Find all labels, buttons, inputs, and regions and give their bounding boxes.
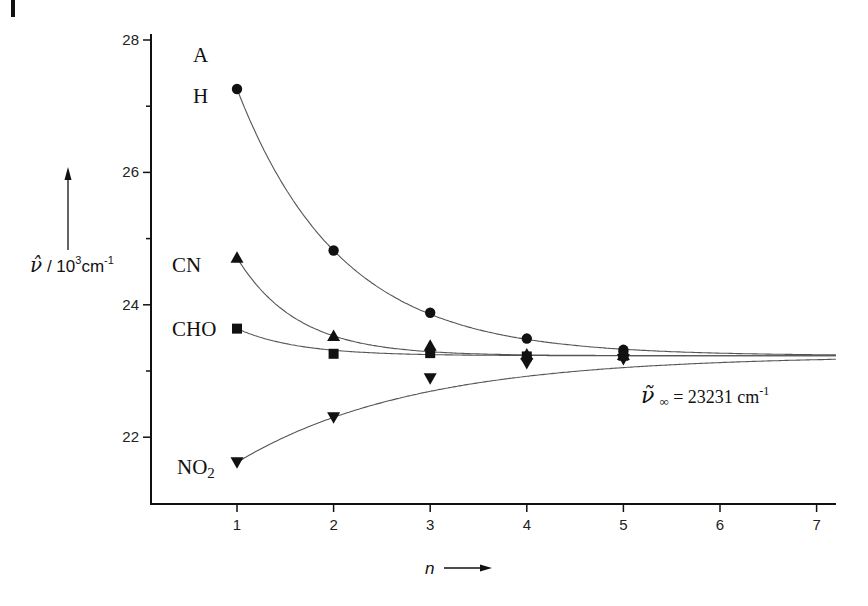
x-tick-label: 7 — [812, 516, 820, 533]
y-tick-label: 28 — [122, 31, 139, 48]
data-markers — [231, 84, 630, 469]
series-label-cho: CHO — [172, 317, 216, 341]
marker-cn — [231, 251, 244, 263]
x-tick-label: 3 — [426, 516, 434, 533]
x-tick-label: 5 — [619, 516, 627, 533]
no2-main: NO — [177, 455, 207, 479]
marker-no2 — [231, 457, 244, 469]
fit-curve-no2 — [237, 359, 836, 462]
marker-cho — [232, 324, 242, 334]
y-tick-label: 22 — [122, 428, 139, 445]
axes: 222426281234567 — [122, 31, 836, 533]
y-tick-label: 24 — [122, 296, 139, 313]
marker-cho — [329, 349, 339, 359]
x-axis-arrowhead — [480, 565, 492, 572]
marker-h — [232, 84, 242, 94]
panel-label: A — [193, 43, 209, 67]
x-tick-label: 2 — [329, 516, 337, 533]
x-tick-label: 6 — [716, 516, 724, 533]
marker-cn — [327, 329, 340, 341]
marker-h — [425, 308, 435, 318]
x-tick-label: 4 — [523, 516, 531, 533]
marker-h — [522, 333, 532, 343]
marker-no2 — [424, 373, 437, 385]
marker-no2 — [520, 358, 533, 370]
y-axis-title: ν̂ / 103cm-1 — [30, 253, 114, 277]
series-label-cn: CN — [172, 253, 201, 277]
y-tick-label: 26 — [122, 163, 139, 180]
marker-cho — [425, 348, 435, 358]
y-axis-arrowhead — [65, 167, 72, 180]
fit-curve-h — [237, 89, 836, 355]
x-axis-title: n — [425, 559, 434, 578]
no2-sub: 2 — [207, 465, 215, 481]
series-label-no2: NO2 — [177, 455, 215, 481]
series-label-h: H — [193, 84, 208, 108]
marker-no2 — [327, 412, 340, 424]
x-tick-label: 1 — [233, 516, 241, 533]
marker-h — [328, 245, 338, 255]
fit-curve-cho — [237, 329, 836, 356]
asymptote-label: ν̃∞ = 23231 cm-1 — [641, 383, 769, 409]
chart: 222426281234567 A H CN CHO NO2 ν̂ / 103c… — [0, 0, 868, 606]
